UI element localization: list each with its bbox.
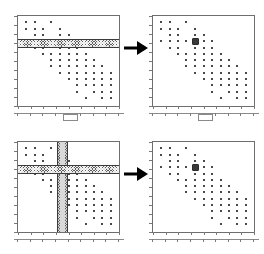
slider-axis-tick [215, 239, 216, 242]
x-axis-tick [69, 106, 70, 109]
y-axis-tick [14, 187, 17, 188]
y-axis-tick [14, 97, 17, 98]
x-axis-tick [18, 106, 19, 109]
slider-axis-tick [228, 113, 229, 116]
x-axis-tick [241, 232, 242, 235]
slider-axis-tick [228, 239, 229, 242]
figure-root [0, 0, 264, 254]
y-axis-tick [149, 43, 152, 44]
y-axis-tick [149, 160, 152, 161]
transition-arrow-bottom [124, 167, 148, 181]
x-axis-tick [43, 232, 44, 235]
x-axis-tick [191, 232, 192, 235]
y-axis-tick [149, 97, 152, 98]
x-axis-tick [94, 232, 95, 235]
y-axis-tick [149, 34, 152, 35]
x-axis-tick [153, 232, 154, 235]
x-axis-tick [106, 232, 107, 235]
slider-axis-tick [55, 113, 56, 116]
y-axis-tick [14, 205, 17, 206]
y-axis-tick [149, 196, 152, 197]
slider-axis-tick [253, 239, 254, 242]
slider-axis-tick [253, 113, 254, 116]
y-axis-tick [14, 196, 17, 197]
x-axis-tick [69, 232, 70, 235]
slider-axis-tick [152, 113, 153, 116]
y-axis-tick [149, 16, 152, 17]
y-axis-tick [14, 88, 17, 89]
x-axis-tick [229, 106, 230, 109]
x-axis-tick [254, 232, 255, 235]
y-axis-tick [14, 70, 17, 71]
y-axis-tick [149, 187, 152, 188]
slider-axis-tick [80, 239, 81, 242]
y-axis-tick [14, 169, 17, 170]
slider-axis-tick [190, 239, 191, 242]
ticks-layer-bottom-right [152, 141, 255, 233]
y-axis-tick [14, 61, 17, 62]
slider-axis-tick [215, 113, 216, 116]
y-axis-tick [149, 106, 152, 107]
slider-axis-tick [240, 113, 241, 116]
axis-rule-ticks-bottom-left [14, 239, 124, 243]
y-axis-tick [149, 61, 152, 62]
x-axis-tick [56, 106, 57, 109]
x-axis-tick [106, 106, 107, 109]
y-axis-tick [149, 88, 152, 89]
slider-axis-tick [68, 239, 69, 242]
slider-axis-tick [55, 239, 56, 242]
slider-axis-tick [165, 113, 166, 116]
x-axis-tick [229, 232, 230, 235]
y-axis-tick [14, 151, 17, 152]
y-axis-tick [14, 142, 17, 143]
x-axis-tick [254, 106, 255, 109]
y-axis-tick [14, 79, 17, 80]
y-axis-tick [149, 232, 152, 233]
slider-axis-tick [105, 113, 106, 116]
x-axis-tick [204, 106, 205, 109]
transition-arrow-top [124, 41, 148, 55]
slider-axis-tick [190, 113, 191, 116]
slider-axis-tick [30, 113, 31, 116]
panel-bottom-right [152, 141, 255, 233]
slider-axis-tick [17, 113, 18, 116]
slider-axis-tick [240, 239, 241, 242]
x-axis-tick [31, 106, 32, 109]
y-axis-tick [149, 52, 152, 53]
x-axis-tick [18, 232, 19, 235]
x-axis-tick [94, 106, 95, 109]
y-axis-tick [149, 169, 152, 170]
ticks-layer-bottom-left [17, 141, 120, 233]
x-axis-tick [166, 106, 167, 109]
slider-axis-tick [93, 113, 94, 116]
slider-handle-top-right[interactable] [198, 114, 213, 121]
slider-handle-top-left[interactable] [63, 114, 78, 121]
y-axis-tick [14, 106, 17, 107]
y-axis-tick [149, 142, 152, 143]
y-axis-tick [149, 70, 152, 71]
slider-axis-tick [80, 113, 81, 116]
x-axis-tick [119, 232, 120, 235]
x-axis-tick [56, 232, 57, 235]
y-axis-tick [14, 160, 17, 161]
x-axis-tick [166, 232, 167, 235]
y-axis-tick [149, 223, 152, 224]
x-axis-tick [43, 106, 44, 109]
y-axis-tick [14, 178, 17, 179]
y-axis-tick [149, 151, 152, 152]
x-axis-tick [153, 106, 154, 109]
y-axis-tick [149, 205, 152, 206]
slider-axis-tick [118, 239, 119, 242]
x-axis-tick [81, 106, 82, 109]
y-axis-tick [149, 79, 152, 80]
panel-top-right [152, 15, 255, 107]
y-axis-tick [149, 214, 152, 215]
slider-axis-tick [165, 239, 166, 242]
y-axis-tick [14, 34, 17, 35]
y-axis-tick [14, 232, 17, 233]
slider-axis-tick [177, 239, 178, 242]
panel-top-left [17, 15, 120, 107]
y-axis-tick [14, 214, 17, 215]
slider-axis-tick [42, 239, 43, 242]
y-axis-tick [149, 178, 152, 179]
